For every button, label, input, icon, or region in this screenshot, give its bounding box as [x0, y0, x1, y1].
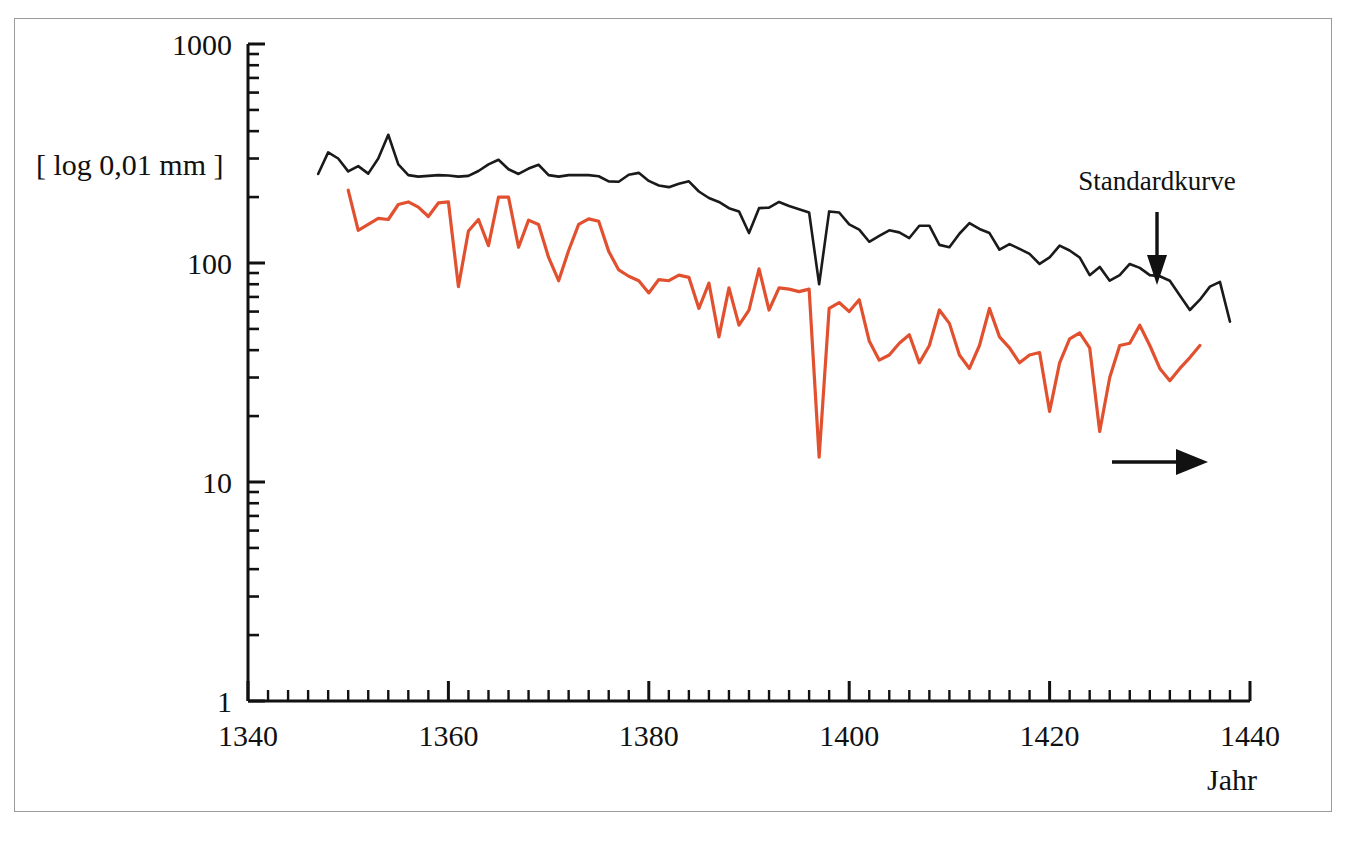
series-line-messkurve: [348, 190, 1200, 457]
right-arrow-icon: [1112, 449, 1208, 475]
x-axis-title: Jahr: [1207, 763, 1257, 796]
figure-page: 1101001000 134013601380140014201440 [ lo…: [0, 0, 1347, 853]
x-axis-minor-ticks: [268, 690, 1230, 701]
y-axis-title: [ log 0,01 mm ]: [36, 148, 224, 181]
y-tick-label: 100: [187, 247, 232, 280]
x-axis-tick-labels: 134013601380140014201440: [218, 719, 1280, 752]
y-axis-major-ticks: [248, 44, 265, 701]
x-tick-label: 1440: [1220, 719, 1280, 752]
x-tick-label: 1360: [418, 719, 478, 752]
x-tick-label: 1400: [819, 719, 879, 752]
y-tick-label: 1000: [172, 28, 232, 61]
y-axis-minor-ticks: [248, 54, 259, 635]
x-tick-label: 1420: [1020, 719, 1080, 752]
x-tick-label: 1340: [218, 719, 278, 752]
x-axis: 134013601380140014201440: [218, 681, 1280, 752]
chart-canvas: 1101001000 134013601380140014201440 [ lo…: [0, 0, 1347, 853]
x-tick-label: 1380: [619, 719, 679, 752]
y-tick-label: 10: [202, 466, 232, 499]
standardkurve-annotation-label: Standardkurve: [1078, 166, 1235, 196]
series-line-standardkurve: [318, 135, 1230, 322]
y-axis: 1101001000: [172, 28, 265, 718]
y-tick-label: 1: [217, 685, 232, 718]
y-axis-tick-labels: 1101001000: [172, 28, 232, 718]
